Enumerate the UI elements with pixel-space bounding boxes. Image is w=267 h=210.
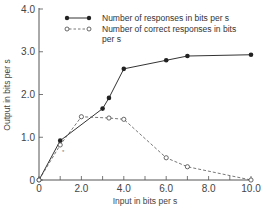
open-data-point <box>58 143 62 147</box>
filled-data-point <box>58 138 63 143</box>
open-data-point <box>79 115 83 119</box>
filled-data-point <box>185 54 190 59</box>
y-tick-label: 4.0 <box>21 4 35 15</box>
series-correct-responses <box>37 115 253 182</box>
filled-data-point <box>249 52 254 57</box>
y-tick-label: 3.0 <box>21 46 35 57</box>
legend-filled-circle-icon <box>65 16 69 20</box>
open-data-point <box>249 178 253 182</box>
series-responses <box>37 52 254 182</box>
open-data-point <box>185 165 189 169</box>
x-tick-label: 0 <box>36 183 42 194</box>
dashed-line <box>39 117 251 180</box>
legend-item-responses: Number of responses in bits per s <box>65 13 229 23</box>
x-tick-label: 6.0 <box>159 183 173 194</box>
x-tick-label: 10.0 <box>241 183 261 194</box>
filled-data-point <box>100 106 105 111</box>
stray-mark: * <box>62 149 65 155</box>
filled-data-point <box>164 58 169 63</box>
legend-filled-circle-icon <box>87 16 91 20</box>
open-data-point <box>164 156 168 160</box>
x-tick-label: 4.0 <box>117 183 131 194</box>
legend: Number of responses in bits per s Number… <box>65 13 236 44</box>
open-data-point <box>107 116 111 120</box>
line-chart: 02.04.06.08.010.0 01.02.03.04.0 Input in… <box>0 0 267 210</box>
legend-open-circle-icon <box>87 27 91 31</box>
y-axis-title: Output in bits per s <box>2 59 12 130</box>
y-tick-label: 0 <box>29 175 35 186</box>
legend-item-correct-responses: Number of correct responses in bits per … <box>65 24 236 44</box>
filled-data-point <box>122 67 127 72</box>
legend-label-responses: Number of responses in bits per s <box>102 13 229 23</box>
solid-line <box>39 55 251 180</box>
y-tick-label: 2.0 <box>21 89 35 100</box>
x-ticks: 02.04.06.08.010.0 <box>36 176 261 194</box>
x-axis-title: Input in bits per s <box>113 196 178 206</box>
open-data-point <box>37 178 41 182</box>
filled-data-point <box>107 96 112 101</box>
x-tick-label: 2.0 <box>74 183 88 194</box>
legend-open-circle-icon <box>65 27 69 31</box>
y-tick-label: 1.0 <box>21 132 35 143</box>
legend-label-correct-responses: Number of correct responses in bits <box>102 24 236 34</box>
legend-label-correct-responses-cont: per s <box>102 34 121 44</box>
x-tick-label: 8.0 <box>202 183 216 194</box>
y-ticks: 01.02.03.04.0 <box>21 4 43 186</box>
open-data-point <box>122 117 126 121</box>
plot-area <box>37 52 254 182</box>
